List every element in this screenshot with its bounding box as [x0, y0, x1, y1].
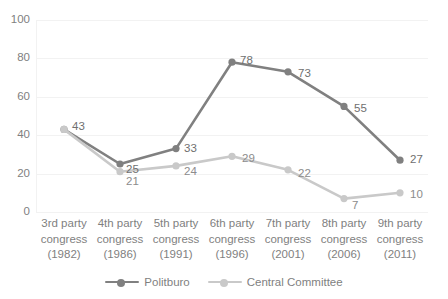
category-label-line: 6th party	[201, 216, 263, 232]
category-label-line: 8th party	[313, 216, 375, 232]
data-label: 22	[298, 168, 311, 180]
legend-item-central-committee[interactable]: Central Committee	[208, 276, 343, 288]
data-point	[60, 126, 67, 133]
category-label-line: (1991)	[145, 247, 207, 263]
category-label-line: 9th party	[369, 216, 431, 232]
data-point	[396, 189, 403, 196]
category-label-line: 5th party	[145, 216, 207, 232]
category-label-line: congress	[257, 232, 319, 248]
y-tick-label: 0	[0, 206, 30, 218]
category-label-line: 4th party	[89, 216, 151, 232]
data-point	[228, 153, 235, 160]
category-label-line: (2011)	[369, 247, 431, 263]
data-point	[228, 59, 235, 66]
data-label: 27	[410, 154, 423, 166]
data-point	[396, 157, 403, 164]
category-label-line: (1996)	[201, 247, 263, 263]
category-label: 8th partycongress(2006)	[313, 216, 375, 263]
data-point	[340, 103, 347, 110]
category-label-line: congress	[201, 232, 263, 248]
y-axis-labels: 020406080100	[0, 20, 32, 212]
data-label: 33	[184, 143, 197, 155]
data-label: 43	[72, 122, 85, 134]
series-line-central-committee	[64, 129, 400, 198]
data-label: 24	[184, 166, 197, 178]
chart-legend: PolitburoCentral Committee	[0, 276, 448, 288]
x-axis-categories: 3rd partycongress(1982)4th partycongress…	[36, 216, 428, 272]
category-label-line: 3rd party	[33, 216, 95, 232]
data-label: 10	[410, 189, 423, 201]
y-tick-label: 40	[0, 129, 30, 141]
data-point	[116, 168, 123, 175]
category-label-line: congress	[369, 232, 431, 248]
data-label: 73	[298, 68, 311, 80]
data-label: 29	[242, 154, 255, 166]
category-label: 3rd partycongress(1982)	[33, 216, 95, 263]
data-point	[172, 162, 179, 169]
category-label-line: 7th party	[257, 216, 319, 232]
category-label: 4th partycongress(1986)	[89, 216, 151, 263]
data-point	[116, 160, 123, 167]
category-label-line: (1982)	[33, 247, 95, 263]
category-label: 6th partycongress(1996)	[201, 216, 263, 263]
series-lines	[36, 20, 428, 212]
y-tick-label: 80	[0, 53, 30, 65]
data-point	[284, 68, 291, 75]
category-label: 7th partycongress(2001)	[257, 216, 319, 263]
category-label: 5th partycongress(1991)	[145, 216, 207, 263]
data-label: 21	[126, 176, 139, 188]
line-chart: 020406080100 432533787355274321242922710…	[0, 0, 448, 299]
category-label-line: congress	[89, 232, 151, 248]
legend-label: Central Committee	[247, 276, 343, 288]
y-tick-label: 60	[0, 91, 30, 103]
category-label-line: (2001)	[257, 247, 319, 263]
legend-item-politburo[interactable]: Politburo	[105, 276, 189, 288]
data-label: 78	[240, 55, 253, 67]
category-label: 9th partycongress(2011)	[369, 216, 431, 263]
data-point	[284, 166, 291, 173]
y-tick-label: 100	[0, 14, 30, 26]
data-point	[172, 145, 179, 152]
data-label: 7	[352, 200, 358, 212]
category-label-line: (2006)	[313, 247, 375, 263]
category-label-line: congress	[313, 232, 375, 248]
data-label: 55	[354, 104, 367, 116]
category-label-line: (1986)	[89, 247, 151, 263]
category-label-line: congress	[145, 232, 207, 248]
legend-swatch-icon	[208, 277, 242, 287]
plot-area: 432533787355274321242922710	[36, 20, 428, 212]
legend-label: Politburo	[144, 276, 189, 288]
y-tick-label: 20	[0, 168, 30, 180]
legend-swatch-icon	[105, 277, 139, 287]
data-point	[340, 195, 347, 202]
series-line-politburo	[64, 62, 400, 164]
gridline	[36, 212, 428, 213]
category-label-line: congress	[33, 232, 95, 248]
